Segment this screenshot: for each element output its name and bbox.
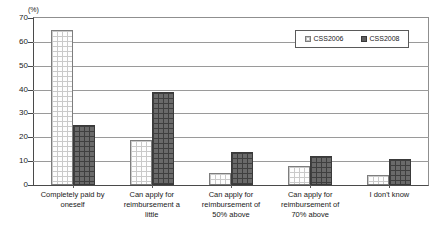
legend-entry: CSS2006 [305, 35, 344, 43]
legend-label: CSS2008 [370, 35, 400, 43]
y-tick-label: 20 [19, 133, 28, 141]
y-tick-label: 30 [19, 109, 28, 117]
x-tick-mark [389, 185, 390, 188]
bar-css2008 [310, 156, 332, 185]
y-tick-mark [28, 66, 33, 67]
y-tick-mark [28, 18, 33, 19]
bar-css2008 [389, 159, 411, 185]
bar-css2006 [367, 175, 389, 185]
legend-entry: CSS2008 [361, 35, 400, 43]
bar-group [130, 18, 174, 185]
x-category-label-line: reimbursement of [191, 200, 270, 210]
legend-swatch-icon [305, 36, 311, 42]
x-category-label: Completely paid byoneself [33, 190, 112, 210]
x-category-label-line: Can apply for [112, 190, 191, 200]
x-category-label-line: Completely paid by [33, 190, 112, 200]
bar-chart: (%) 706050403020100 CSS2006CSS2008 Compl… [0, 0, 436, 234]
x-category-label: Can apply forreimbursement of50% above [191, 190, 270, 220]
x-category-label-line: Can apply for [271, 190, 350, 200]
x-category-label-line: I don't know [350, 190, 429, 200]
bar-css2008 [231, 152, 253, 185]
bar-css2006 [130, 140, 152, 185]
y-tick-mark [28, 42, 33, 43]
x-category-label: Can apply forreimbursement of70% above [271, 190, 350, 220]
y-tick-label: 10 [19, 157, 28, 165]
x-tick-mark [152, 185, 153, 188]
x-category-label-line: oneself [33, 200, 112, 210]
y-tick-mark [28, 185, 33, 186]
x-category-label-line: reimbursement of [271, 200, 350, 210]
x-category-label-line: 70% above [271, 210, 350, 220]
y-tick-mark [28, 113, 33, 114]
x-category-label-line: 50% above [191, 210, 270, 220]
bar-group [51, 18, 95, 185]
bar-css2008 [73, 125, 95, 185]
y-tick-label: 60 [19, 38, 28, 46]
x-category-label: Can apply forreimbursement alittle [112, 190, 191, 220]
x-tick-mark [73, 185, 74, 188]
chart-legend: CSS2006CSS2008 [295, 30, 409, 48]
x-category-label: I don't know [350, 190, 429, 200]
x-axis-category-labels: Completely paid byoneselfCan apply forre… [33, 190, 429, 232]
legend-swatch-icon [361, 36, 367, 42]
y-tick-label: 70 [19, 14, 28, 22]
y-tick-mark [28, 161, 33, 162]
x-category-label-line: Can apply for [191, 190, 270, 200]
bar-css2006 [209, 173, 231, 185]
bar-css2008 [152, 92, 174, 185]
y-tick-label: 50 [19, 62, 28, 70]
y-tick-mark [28, 90, 33, 91]
legend-label: CSS2006 [314, 35, 344, 43]
x-tick-mark [231, 185, 232, 188]
y-axis-unit-label: (%) [28, 6, 39, 14]
x-category-label-line: little [112, 210, 191, 220]
bar-group [209, 18, 253, 185]
y-tick-label: 40 [19, 86, 28, 94]
x-tick-mark [310, 185, 311, 188]
y-axis-tick-labels: 706050403020100 [0, 17, 28, 186]
bar-css2006 [288, 166, 310, 185]
y-tick-mark [28, 137, 33, 138]
x-category-label-line: reimbursement a [112, 200, 191, 210]
bar-css2006 [51, 30, 73, 185]
